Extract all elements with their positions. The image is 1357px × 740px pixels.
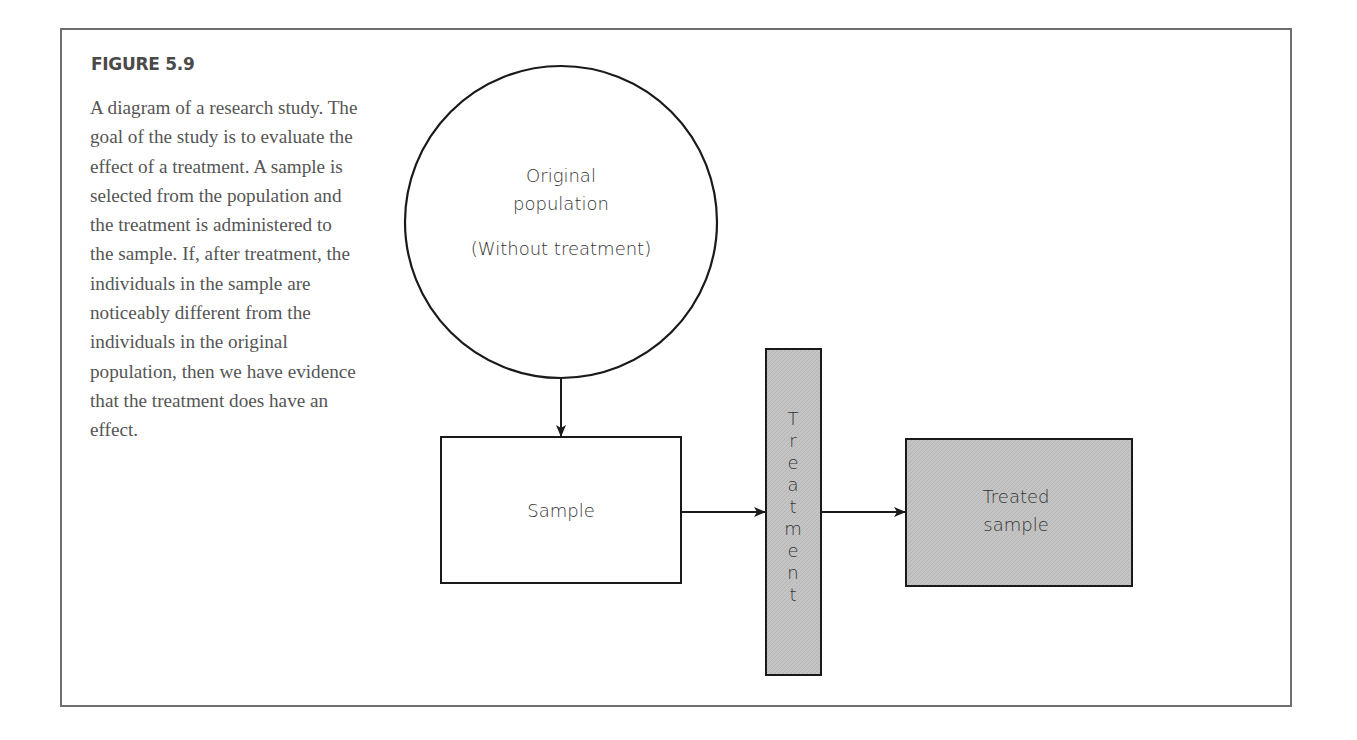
treatment-node: Treatment [766, 349, 821, 675]
treatment-letter: e [787, 540, 798, 561]
treatment-letter: t [789, 496, 796, 517]
population-label-line1: Original [526, 165, 596, 186]
treatment-letter: t [789, 584, 796, 605]
treatment-letter: r [789, 430, 797, 451]
treatment-letter: e [787, 452, 798, 473]
treated-sample-label-line2: sample [983, 514, 1048, 535]
sample-node: Sample [441, 437, 681, 583]
treatment-letter: m [784, 518, 802, 539]
population-node: Original population (Without treatment) [405, 66, 717, 378]
sample-label: Sample [527, 500, 595, 521]
treatment-letter: T [788, 408, 799, 429]
treatment-letter: a [787, 474, 798, 495]
population-label-line2: population [513, 193, 609, 214]
treated-sample-label-line1: Treated [982, 486, 1049, 507]
population-label-line3: (Without treatment) [471, 238, 651, 259]
research-study-diagram: Original population (Without treatment) … [0, 0, 1357, 740]
treatment-letter: n [787, 562, 798, 583]
treated-sample-node: Treated sample [906, 439, 1132, 586]
